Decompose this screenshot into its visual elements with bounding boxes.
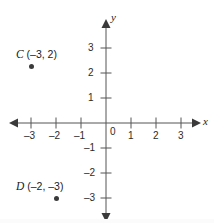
y-axis-label: y (111, 12, 116, 23)
data-point-d (54, 196, 59, 201)
x-tick-label-2: 2 (153, 131, 159, 141)
data-point-c (29, 64, 34, 69)
coordinate-plane: y x 0 –3 –2 –1 1 2 3 3 2 1 –1 –2 –3 C (–… (0, 0, 214, 223)
y-tick-label-2: 2 (88, 68, 94, 78)
x-tick-label--2: –2 (49, 131, 60, 141)
point-label-c: C (–3, 2) (16, 49, 57, 61)
point-coords-d: (–2, –3) (24, 180, 63, 192)
y-tick-label-3: 3 (88, 43, 94, 53)
point-coords-c: (–3, 2) (24, 48, 57, 60)
point-label-d: D (–2, –3) (16, 181, 63, 193)
point-name-c: C (16, 48, 24, 60)
y-tick-label--1: –1 (84, 143, 95, 153)
y-tick-label--2: –2 (84, 168, 95, 178)
y-tick-label--3: –3 (84, 193, 95, 203)
x-axis-left-arrow (9, 119, 18, 128)
bottom-edge-band (0, 219, 214, 223)
x-tick-label--1: –1 (74, 131, 85, 141)
origin-label: 0 (110, 127, 116, 137)
x-axis-right-arrow (192, 119, 201, 128)
x-tick-label-3: 3 (178, 131, 184, 141)
x-tick-label--3: –3 (24, 131, 35, 141)
y-axis-up-arrow (102, 19, 111, 28)
x-axis-label: x (203, 116, 208, 127)
y-tick-label-1: 1 (88, 93, 94, 103)
x-tick-label-1: 1 (128, 131, 134, 141)
